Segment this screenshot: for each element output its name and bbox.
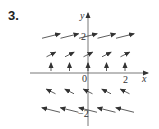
field-arrow [102, 52, 111, 57]
field-arrow [61, 108, 79, 113]
field-arrow [121, 52, 130, 57]
field-arrow [121, 89, 130, 94]
field-arrow [61, 34, 79, 39]
field-arrow [98, 108, 116, 113]
field-arrow [47, 52, 56, 57]
field-arrow [42, 34, 60, 39]
y-axis-label: y [79, 10, 85, 21]
field-arrow [47, 89, 56, 94]
field-arrow [102, 89, 111, 94]
field-arrow [116, 34, 134, 39]
field-arrow [65, 89, 74, 94]
vector-field-plot: x y 0 2 2 −2 [0, 0, 159, 129]
origin-label: 0 [82, 73, 87, 84]
field-arrow [98, 34, 116, 39]
field-arrow [65, 52, 74, 57]
field-arrow [42, 108, 60, 113]
x-tick-label: 2 [123, 74, 128, 85]
x-axis-label: x [141, 73, 147, 84]
field-arrow [116, 108, 134, 113]
